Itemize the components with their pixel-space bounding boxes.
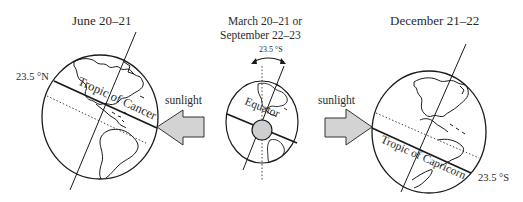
equinox-globe: Equator [226, 58, 298, 180]
globe-outline [372, 71, 486, 193]
sunlight-label-left: sunlight [165, 94, 202, 106]
june-latitude-label: 23.5 °N [16, 71, 49, 82]
sunlight-label-right: sunlight [318, 94, 355, 106]
sunlight-arrow-right [325, 109, 372, 145]
tilt-arrowhead-left [251, 58, 257, 64]
december-latitude-label: 23.5 °S [478, 172, 509, 183]
tilt-arc [253, 58, 284, 62]
equinox-tilt-label: 23.5 °S [259, 45, 283, 54]
sunlight-arrow-left [157, 110, 204, 145]
december-globe: Tropic of Capricorn [372, 44, 486, 193]
december-title: December 21–22 [390, 13, 479, 29]
tilt-arrowhead-right [280, 58, 286, 64]
subsolar-point-disc [252, 120, 272, 140]
june-globe: Tropic of Cancer [42, 32, 159, 190]
june-title: June 20–21 [72, 13, 132, 29]
equinox-title-line1: March 20–21 or [228, 14, 300, 28]
equinox-title-line2: September 22–23 [220, 28, 300, 42]
equinox-title: March 20–21 or September 22–23 [228, 14, 300, 42]
